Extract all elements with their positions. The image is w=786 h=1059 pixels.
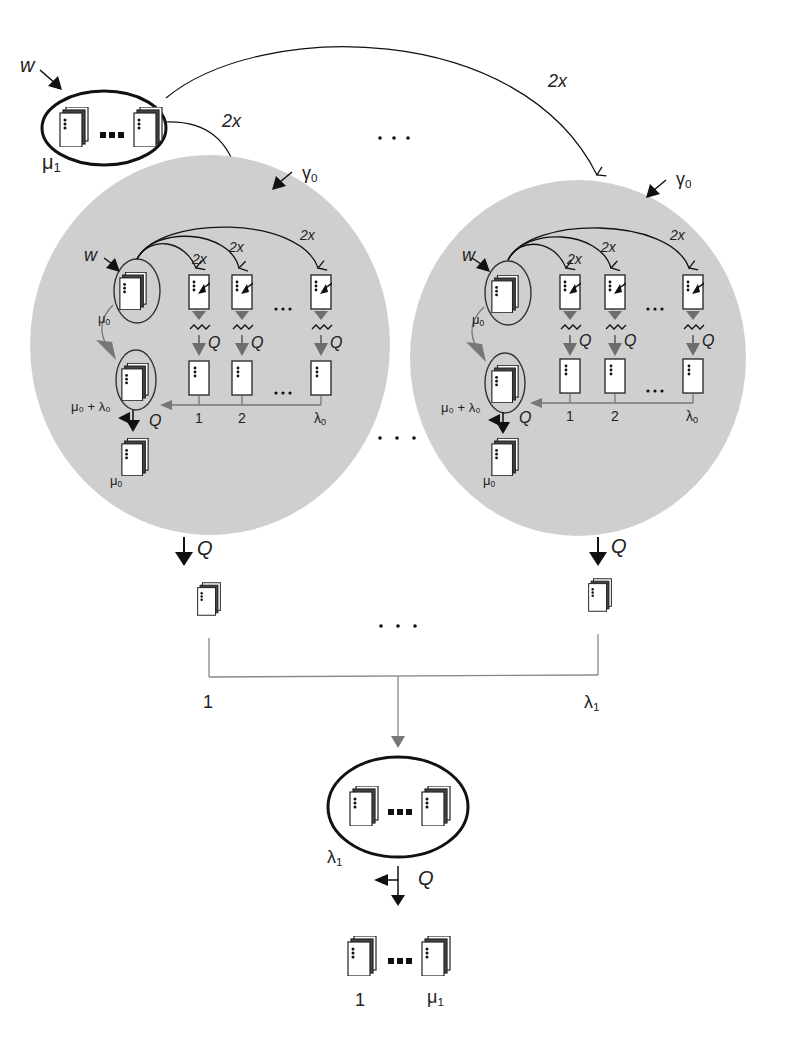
cluster-2-out-q: Q (519, 410, 531, 426)
cluster-1-bottom-mu: μ0 (110, 474, 122, 489)
cluster-2-bottom-mu: μ0 (483, 474, 495, 489)
cluster-2-edge-1: 2x (567, 252, 582, 266)
cluster-2-exit-q: Q (611, 536, 627, 556)
cluster-1-index-2: 2 (238, 411, 246, 425)
top-weight-arrow (40, 70, 62, 90)
top-edge-left-label: 2x (222, 112, 241, 130)
collector-size-label: λ1 (327, 848, 343, 868)
cluster-2-index-last: λ0 (686, 409, 698, 425)
cluster-1-exit-q: Q (197, 538, 213, 558)
cluster-1-q-1: Q (208, 335, 220, 351)
merge-connector (209, 634, 598, 740)
cluster-1-edge-1: 2x (192, 252, 207, 266)
cluster-2-q-2: Q (624, 333, 636, 349)
cluster-2-edge-2: 2x (601, 240, 616, 254)
final-right-label: μ1 (427, 988, 444, 1008)
cluster-2-index-1: 1 (566, 409, 574, 423)
cluster-2-q-1: Q (579, 333, 591, 349)
cluster-1-out-q: Q (149, 413, 161, 429)
cluster-1-q-3: Q (330, 335, 342, 351)
cluster-1-w: w (84, 246, 97, 264)
cluster-1-edge-2: 2x (229, 240, 244, 254)
top-edge-right-label: 2x (548, 72, 567, 90)
cluster-1-mu-lambda: μ₀ + λ₀ (71, 400, 111, 413)
cluster-2-q-3: Q (702, 333, 714, 349)
cluster-1-edge-3: 2x (300, 228, 315, 242)
collector-out-q: Q (418, 868, 434, 888)
cluster-2-index-2: 2 (611, 409, 619, 423)
diagram-canvas (0, 0, 786, 1059)
final-left-label: 1 (355, 991, 365, 1009)
top-size-label: μ1 (42, 152, 61, 174)
merge-left-label: 1 (203, 693, 213, 711)
merge-right-label: λ1 (584, 693, 600, 713)
cluster-2 (410, 180, 746, 611)
cluster-1-gamma: γ0 (302, 164, 318, 184)
cluster-1-index-1: 1 (195, 411, 203, 425)
cluster-2-gamma: γ0 (676, 170, 692, 190)
cluster-2-mu-lambda: μ₀ + λ₀ (441, 401, 481, 414)
cluster-2-w: w (462, 246, 475, 264)
cluster-2-edge-3: 2x (670, 228, 685, 242)
final-row (348, 936, 450, 976)
cluster-2-mu0: μ0 (472, 313, 484, 328)
top-weight-label: w (20, 55, 34, 75)
cluster-1-index-last: λ0 (314, 411, 326, 427)
cluster-1-q-2: Q (251, 335, 263, 351)
collector-node (328, 757, 468, 906)
cluster-1-mu0: μ0 (98, 312, 110, 327)
